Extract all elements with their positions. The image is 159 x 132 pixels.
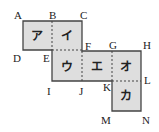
cell-ka: カ [120,89,132,103]
point-j: J [79,85,84,97]
cell-i: イ [61,29,73,43]
point-n: N [142,114,150,126]
point-m: M [101,114,111,126]
point-a: A [14,9,22,21]
cell-a: ア [31,29,43,43]
point-f: F [85,40,91,52]
point-g: G [109,39,117,51]
cell-o: オ [120,60,132,74]
net-diagram: ア イ ウ エ オ カ A B C D E F G H I J K L M N [0,0,159,132]
cell-u: ウ [61,60,73,74]
point-i: I [47,85,51,97]
cell-e: エ [91,60,103,74]
point-d: D [13,52,21,64]
point-k: K [103,81,111,93]
point-e: E [43,52,50,64]
point-c: C [80,9,87,21]
point-h: H [143,39,151,51]
point-b: B [49,9,56,21]
point-l: L [144,74,151,86]
